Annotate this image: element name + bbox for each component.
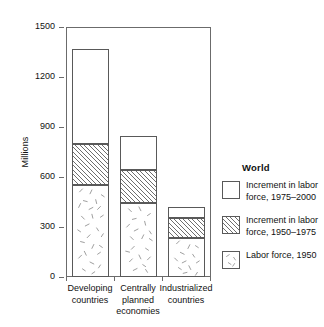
- y-tick-mark-300: [59, 227, 64, 228]
- legend-item-labor-force-1950[interactable]: Labor force, 1950: [222, 250, 322, 276]
- legend-label-line-2: force, 1950–1975: [246, 227, 322, 239]
- bar-segment-increment-1975-2000[interactable]: [120, 136, 157, 170]
- speckle-pattern-icon: [169, 239, 204, 276]
- legend-swatch-white-icon: [222, 181, 240, 199]
- x-label-line-1: Industrialized: [147, 283, 225, 295]
- bar-centrally-planned-economies[interactable]: [120, 136, 157, 277]
- bar-developing-countries[interactable]: [72, 49, 109, 277]
- x-tick-industrialized-countries: [210, 277, 211, 281]
- legend-item-increment-1975-2000[interactable]: Increment in labor force, 1975–2000: [222, 180, 322, 206]
- bar-segment-increment-1975-2000[interactable]: [72, 49, 109, 144]
- legend-swatch-hatch-icon: [222, 216, 240, 234]
- y-tick-mark-900: [59, 127, 64, 128]
- x-tick-developing-countries: [114, 277, 115, 281]
- legend-label-line-1: Increment in labor: [246, 215, 322, 227]
- y-tick-label-0: 0: [50, 271, 55, 281]
- bar-segment-increment-1975-2000[interactable]: [168, 207, 205, 218]
- bar-industrialized-countries[interactable]: [168, 207, 205, 277]
- legend-title: World: [242, 162, 322, 173]
- x-label-line-2: countries: [147, 295, 225, 307]
- bar-segment-increment-1950-1975[interactable]: [72, 144, 109, 186]
- bars-layer: [66, 27, 211, 277]
- x-tick-centrally-planned-economies: [162, 277, 163, 281]
- y-tick-mark-1500: [59, 27, 64, 28]
- bar-segment-increment-1950-1975[interactable]: [168, 218, 205, 238]
- legend-swatch-speckle-icon: [222, 251, 240, 269]
- bar-segment-labor-force-1950[interactable]: [168, 238, 205, 277]
- speckle-pattern-icon: [121, 204, 156, 276]
- y-tick-mark-0: [59, 277, 64, 278]
- y-tick-label-1500: 1500: [35, 21, 55, 31]
- y-axis-title: Millions: [20, 104, 30, 200]
- legend-label-increment-1975-2000: Increment in labor force, 1975–2000: [246, 180, 322, 203]
- x-label-line-3: economies: [99, 306, 177, 318]
- speckle-pattern-icon: [73, 186, 108, 276]
- x-tick-left-edge: [66, 277, 67, 281]
- y-tick-label-900: 900: [40, 121, 55, 131]
- legend-label-increment-1950-1975: Increment in labor force, 1950–1975: [246, 215, 322, 238]
- speckle-pattern-icon: [223, 252, 239, 268]
- y-tick-mark-600: [59, 177, 64, 178]
- chart-root: Millions 1500 1200 900 600 300 0: [0, 0, 324, 327]
- legend-label-labor-force-1950: Labor force, 1950: [246, 250, 322, 262]
- bar-segment-labor-force-1950[interactable]: [72, 185, 109, 277]
- y-tick-label-300: 300: [40, 221, 55, 231]
- legend-label-line-1: Labor force, 1950: [246, 250, 322, 262]
- x-axis-label-industrialized-countries: Industrialized countries: [147, 283, 225, 306]
- legend: World Increment in labor force, 1975–200…: [222, 162, 322, 285]
- legend-label-line-2: force, 1975–2000: [246, 192, 322, 204]
- bar-segment-labor-force-1950[interactable]: [120, 203, 157, 277]
- legend-label-line-1: Increment in labor: [246, 180, 322, 192]
- y-tick-mark-1200: [59, 77, 64, 78]
- legend-item-increment-1950-1975[interactable]: Increment in labor force, 1950–1975: [222, 215, 322, 241]
- bar-segment-increment-1950-1975[interactable]: [120, 170, 157, 203]
- y-tick-label-1200: 1200: [35, 71, 55, 81]
- y-tick-label-600: 600: [40, 171, 55, 181]
